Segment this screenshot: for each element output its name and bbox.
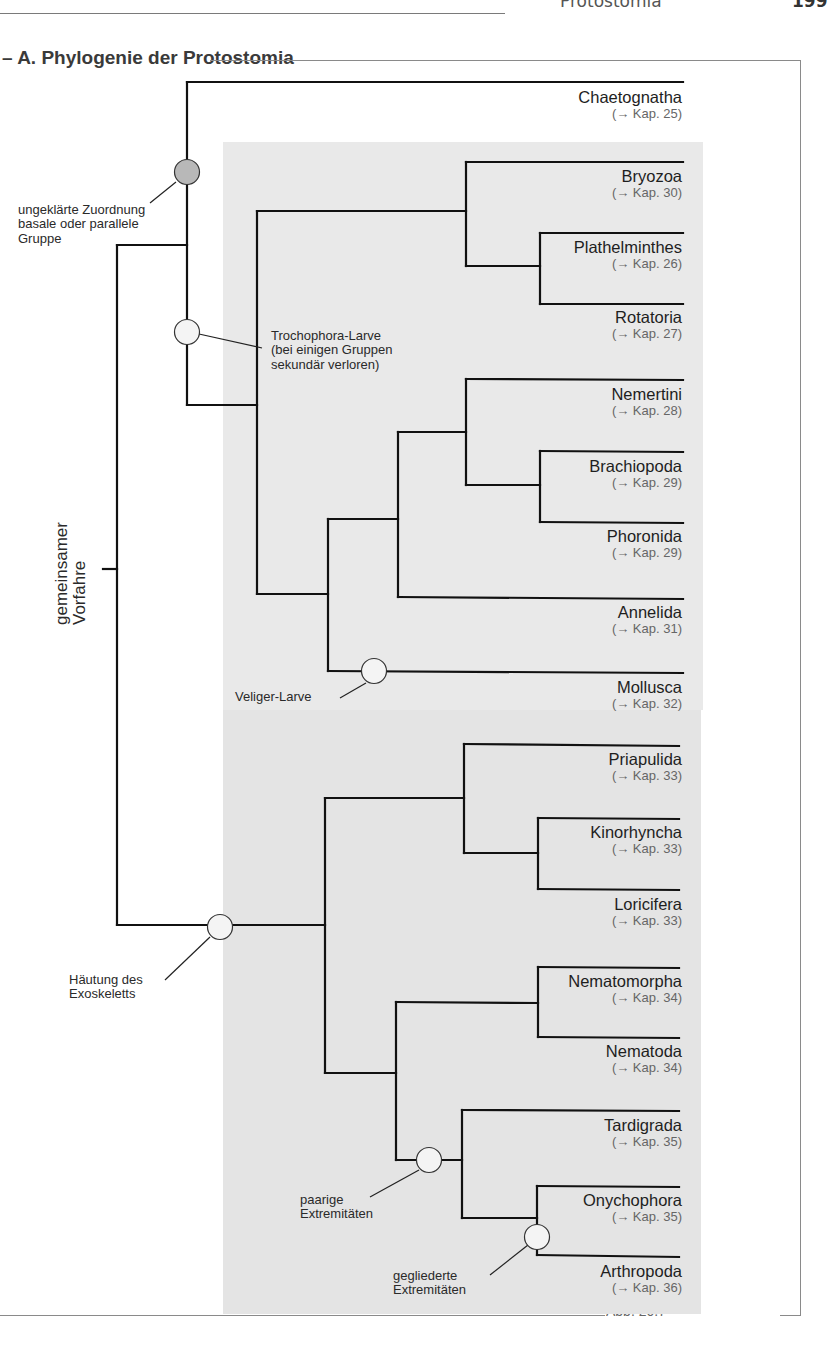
root-label-line1: gemeinsamer	[53, 522, 71, 625]
annotation-line: Extremitäten	[300, 1207, 373, 1221]
chapter-ref: (→ Kap. 34)	[568, 991, 682, 1006]
taxon-name: Mollusca	[612, 678, 682, 697]
taxon-name: Brachiopoda	[589, 457, 682, 476]
annotation-line: (bei einigen Gruppen	[271, 343, 392, 357]
taxon-tardigrada: Tardigrada (→ Kap. 35)	[604, 1116, 682, 1150]
annotation-unclear-placement: ungeklärte Zuordnung basale oder paralle…	[18, 203, 145, 246]
taxon-mollusca: Mollusca (→ Kap. 32)	[612, 678, 682, 712]
chapter-ref: (→ Kap. 34)	[606, 1061, 682, 1076]
taxon-name: Nematoda	[606, 1042, 682, 1061]
annotation-line: Trochophora-Larve	[271, 329, 392, 343]
taxon-onychophora: Onychophora (→ Kap. 35)	[583, 1191, 682, 1225]
chapter-ref: (→ Kap. 28)	[611, 404, 682, 419]
taxon-plathelminthes: Plathelminthes (→ Kap. 26)	[574, 238, 682, 272]
taxon-nematoda: Nematoda (→ Kap. 34)	[606, 1042, 682, 1076]
taxon-name: Priapulida	[609, 750, 682, 769]
taxon-nematomorpha: Nematomorpha (→ Kap. 34)	[568, 972, 682, 1006]
annotation-veliger: Veliger-Larve	[235, 690, 312, 704]
chapter-ref: (→ Kap. 33)	[612, 914, 682, 929]
taxon-name: Kinorhyncha	[590, 823, 682, 842]
chapter-ref: (→ Kap. 29)	[589, 476, 682, 491]
taxon-name: Chaetognatha	[578, 88, 682, 107]
annotation-paired-limbs: paarige Extremitäten	[300, 1193, 373, 1222]
taxon-name: Onychophora	[583, 1191, 682, 1210]
taxon-name: Rotatoria	[612, 308, 682, 327]
annotation-line: Exoskeletts	[69, 987, 143, 1001]
taxon-name: Bryozoa	[612, 167, 682, 186]
annotation-trochophora: Trochophora-Larve (bei einigen Gruppen s…	[271, 329, 392, 372]
taxon-chaetognatha: Chaetognatha (→ Kap. 25)	[578, 88, 682, 122]
taxon-annelida: Annelida (→ Kap. 31)	[612, 603, 682, 637]
annotation-line: Extremitäten	[393, 1283, 466, 1297]
taxon-name: Nematomorpha	[568, 972, 682, 991]
chapter-ref: (→ Kap. 25)	[578, 107, 682, 122]
chapter-ref: (→ Kap. 33)	[609, 769, 682, 784]
annotation-jointed-limbs: gegliederte Extremitäten	[393, 1269, 466, 1298]
chapter-ref: (→ Kap. 32)	[612, 697, 682, 712]
taxon-brachiopoda: Brachiopoda (→ Kap. 29)	[589, 457, 682, 491]
taxon-name: Tardigrada	[604, 1116, 682, 1135]
common-ancestor-label: gemeinsamer Vorfahre	[53, 522, 89, 625]
annotation-line: Gruppe	[18, 232, 145, 246]
taxon-name: Phoronida	[607, 527, 682, 546]
taxon-loricifera: Loricifera (→ Kap. 33)	[612, 895, 682, 929]
taxon-nemertini: Nemertini (→ Kap. 28)	[611, 385, 682, 419]
moulting-node	[208, 915, 233, 940]
veliger-node	[362, 659, 387, 684]
taxon-kinorhyncha: Kinorhyncha (→ Kap. 33)	[590, 823, 682, 857]
chapter-ref: (→ Kap. 26)	[574, 257, 682, 272]
annotation-line: Veliger-Larve	[235, 690, 312, 704]
annotation-moulting: Häutung des Exoskeletts	[69, 973, 143, 1002]
taxon-phoronida: Phoronida (→ Kap. 29)	[607, 527, 682, 561]
root-label-line2: Vorfahre	[71, 522, 89, 625]
annotation-line: Häutung des	[69, 973, 143, 987]
annotation-line: ungeklärte Zuordnung	[18, 203, 145, 217]
chapter-ref: (→ Kap. 31)	[612, 622, 682, 637]
chapter-ref: (→ Kap. 35)	[604, 1135, 682, 1150]
annotation-line: gegliederte	[393, 1269, 466, 1283]
taxon-priapulida: Priapulida (→ Kap. 33)	[609, 750, 682, 784]
chapter-ref: (→ Kap. 33)	[590, 842, 682, 857]
paired-limbs-node	[417, 1148, 442, 1173]
annotation-line: basale oder parallele	[18, 217, 145, 231]
taxon-rotatoria: Rotatoria (→ Kap. 27)	[612, 308, 682, 342]
chapter-ref: (→ Kap. 30)	[612, 186, 682, 201]
chapter-ref: (→ Kap. 36)	[600, 1281, 682, 1296]
taxon-bryozoa: Bryozoa (→ Kap. 30)	[612, 167, 682, 201]
chapter-ref: (→ Kap. 27)	[612, 327, 682, 342]
annotation-line: sekundär verloren)	[271, 358, 392, 372]
annotation-line: paarige	[300, 1193, 373, 1207]
unclear-placement-node	[175, 160, 200, 185]
taxon-name: Arthropoda	[600, 1262, 682, 1281]
taxon-name: Loricifera	[612, 895, 682, 914]
taxon-name: Nemertini	[611, 385, 682, 404]
chapter-ref: (→ Kap. 29)	[607, 546, 682, 561]
chapter-ref: (→ Kap. 35)	[583, 1210, 682, 1225]
taxon-name: Plathelminthes	[574, 238, 682, 257]
taxon-arthropoda: Arthropoda (→ Kap. 36)	[600, 1262, 682, 1296]
taxon-name: Annelida	[612, 603, 682, 622]
trochophora-node	[175, 320, 200, 345]
jointed-limbs-node	[525, 1225, 550, 1250]
